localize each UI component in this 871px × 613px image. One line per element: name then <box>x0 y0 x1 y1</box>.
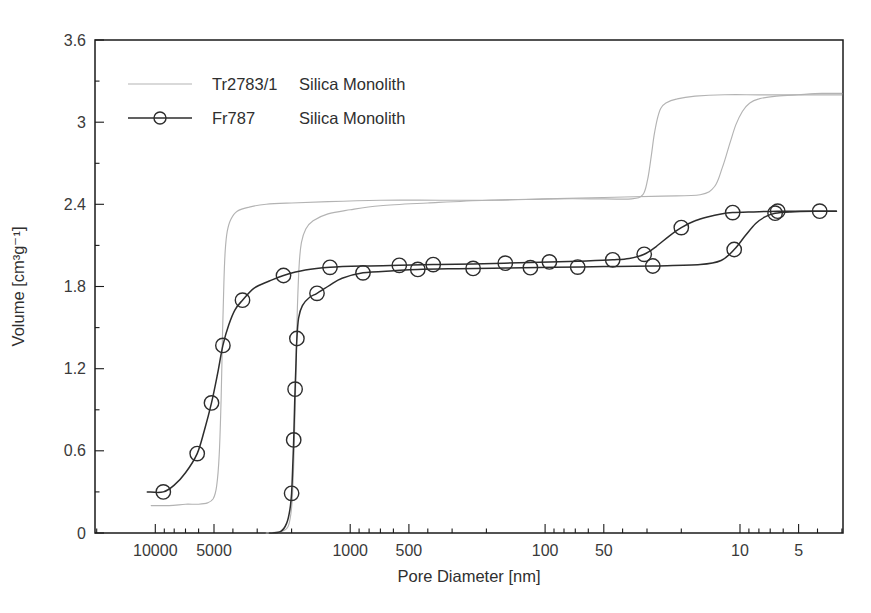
x-tick-label: 500 <box>396 542 423 559</box>
y-tick-label: 0.6 <box>64 442 86 459</box>
porosimetry-figure: 51050100500100050001000000.61.21.82.433.… <box>0 0 871 613</box>
x-tick-label: 5 <box>794 542 803 559</box>
x-tick-label: 50 <box>595 542 613 559</box>
fr787-intrusion-curve <box>269 211 836 533</box>
y-tick-label: 1.8 <box>64 278 86 295</box>
legend-material: Silica Monolith <box>299 109 405 127</box>
y-axis-title: Volume [cm³g⁻¹] <box>9 227 27 347</box>
y-tick-label: 1.2 <box>64 360 86 377</box>
y-tick-label: 3.6 <box>64 32 86 49</box>
y-tick-label: 3 <box>77 114 86 131</box>
x-tick-label: 1000 <box>332 542 368 559</box>
chart-svg: 51050100500100050001000000.61.21.82.433.… <box>0 0 871 613</box>
tr2783-1-extrusion-curve <box>151 95 842 506</box>
fr787-extrusion-curve <box>147 211 836 492</box>
x-tick-label: 5000 <box>196 542 232 559</box>
plot-frame <box>95 40 843 533</box>
legend-material: Silica Monolith <box>299 75 405 93</box>
x-axis-title: Pore Diameter [nm] <box>397 567 540 585</box>
legend-name: Fr787 <box>212 109 255 127</box>
y-tick-label: 2.4 <box>64 196 86 213</box>
legend-name: Tr2783/1 <box>212 75 277 93</box>
tr2783-1-intrusion-curve <box>266 93 842 533</box>
x-tick-label: 100 <box>532 542 559 559</box>
y-tick-label: 0 <box>77 525 86 542</box>
x-tick-label: 10000 <box>133 542 178 559</box>
x-tick-label: 10 <box>731 542 749 559</box>
